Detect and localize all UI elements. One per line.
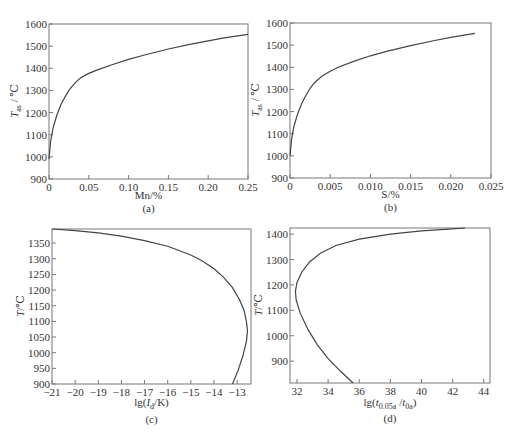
- x-tick-label: 32: [292, 385, 303, 397]
- data-curve: [49, 34, 248, 159]
- y-tick-label: 1100: [25, 129, 47, 141]
- y-tick-label: 1600: [266, 17, 289, 29]
- y-tick-label: 1000: [266, 330, 289, 342]
- plot-frame: [290, 23, 491, 178]
- y-tick-label: 1100: [266, 128, 288, 140]
- x-tick-label: −13: [229, 386, 247, 398]
- figure: 00.050.100.150.200.259001000110012001300…: [0, 0, 507, 442]
- y-tick-label: 1100: [28, 315, 50, 327]
- plot-frame: [49, 24, 248, 179]
- x-axis-label: lg(Id/K): [134, 396, 169, 411]
- y-axis-label: Tas / ℃: [249, 83, 264, 117]
- x-tick-label: 0.020: [438, 180, 463, 192]
- panel-caption: (d): [384, 412, 397, 425]
- panel-caption: (b): [384, 201, 397, 214]
- y-tick-label: 1300: [28, 253, 51, 265]
- x-axis-label: Mn/%: [135, 189, 163, 201]
- data-curve: [295, 228, 465, 383]
- x-tick-label: 0.010: [358, 180, 383, 192]
- x-tick-label: 0.05: [79, 181, 99, 193]
- y-tick-label: 1100: [266, 304, 288, 316]
- x-tick-label: −15: [182, 386, 200, 398]
- panel-caption: (c): [145, 413, 158, 426]
- x-tick-label: 34: [323, 385, 335, 397]
- y-tick-label: 1000: [266, 150, 289, 162]
- chart-panel-a: 00.050.100.150.200.259001000110012001300…: [8, 18, 258, 215]
- y-tick-label: 1400: [266, 61, 289, 73]
- x-tick-label: 0: [287, 180, 293, 192]
- y-axis-label: T/℃: [14, 295, 26, 317]
- x-tick-label: 0.005: [318, 180, 343, 192]
- plot-frame: [290, 228, 490, 383]
- x-tick-label: 0: [46, 181, 52, 193]
- x-tick-label: 0.25: [238, 181, 258, 193]
- x-tick-label: −20: [67, 386, 85, 398]
- plot-frame: [52, 229, 251, 384]
- chart-panel-b: 00.0050.0100.0150.0200.02590010001100120…: [249, 17, 504, 214]
- y-tick-label: 1500: [266, 39, 289, 51]
- chart-panel-d: 3234363840424490010001100120013001400lg(…: [252, 228, 490, 425]
- y-tick-label: 1150: [28, 300, 50, 312]
- y-tick-label: 1200: [28, 284, 51, 296]
- y-axis-label: Tas / ℃: [8, 84, 23, 118]
- x-tick-label: 0.025: [479, 180, 504, 192]
- y-tick-label: 900: [31, 173, 48, 185]
- x-tick-label: 40: [416, 385, 428, 397]
- y-tick-label: 1000: [28, 347, 51, 359]
- x-tick-label: 0.20: [199, 181, 219, 193]
- panel-caption: (a): [142, 202, 155, 215]
- y-tick-label: 1300: [266, 254, 289, 266]
- y-tick-label: 900: [272, 172, 289, 184]
- x-tick-label: −14: [205, 386, 223, 398]
- y-tick-label: 1200: [266, 279, 289, 291]
- y-tick-label: 1250: [28, 268, 51, 280]
- x-tick-label: 38: [385, 385, 397, 397]
- x-axis-label: lg(t0.05a /t0a): [364, 396, 417, 411]
- y-tick-label: 1200: [266, 106, 289, 118]
- x-tick-label: 42: [447, 385, 458, 397]
- y-tick-label: 1050: [28, 331, 51, 343]
- data-curve: [290, 33, 475, 155]
- y-tick-label: 900: [272, 355, 289, 367]
- y-tick-label: 900: [34, 378, 51, 390]
- x-tick-label: 44: [478, 385, 490, 397]
- y-tick-label: 1200: [25, 107, 48, 119]
- y-tick-label: 1600: [25, 18, 48, 30]
- y-tick-label: 1300: [266, 83, 289, 95]
- y-tick-label: 1400: [266, 228, 289, 240]
- y-tick-label: 1500: [25, 40, 48, 52]
- data-curve: [52, 229, 248, 384]
- y-tick-label: 1400: [25, 62, 48, 74]
- y-tick-label: 1000: [25, 151, 48, 163]
- x-tick-label: 0.015: [398, 180, 423, 192]
- y-tick-label: 1350: [28, 237, 51, 249]
- y-tick-label: 1300: [25, 84, 48, 96]
- chart-panel-c: −21−20−19−18−17−16−15−14−139009501000105…: [14, 229, 251, 426]
- x-tick-label: −19: [90, 386, 108, 398]
- y-axis-label: T/℃: [252, 294, 264, 316]
- x-axis-label: S/%: [381, 188, 399, 200]
- y-tick-label: 950: [34, 362, 51, 374]
- x-tick-label: −18: [113, 386, 131, 398]
